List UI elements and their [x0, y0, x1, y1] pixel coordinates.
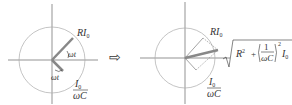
- left-angle-label-2: ωt: [51, 73, 60, 82]
- paren-exponent: 2: [278, 41, 281, 47]
- left-phasor: RI0 ωt ωt I0 ωC: [8, 4, 98, 104]
- phasor-diagram: RI0 ωt ωt I0 ωC ⇨ RI0 I0 ωC R2 + 1 ωC: [0, 0, 292, 105]
- result-I0: I0: [281, 48, 288, 60]
- right-dashed-1: [203, 38, 218, 50]
- left-angle-label-1: ωt: [68, 50, 77, 59]
- sqrt-plus: +: [251, 49, 256, 59]
- right-phasor: RI0 I0 ωC R2 + 1 ωC 2 I0: [140, 2, 292, 104]
- right-label-ri0: RI0: [209, 26, 222, 38]
- right-frac-num: I0: [208, 76, 215, 88]
- left-paren: [259, 44, 261, 62]
- magnitude-expression: R2 + 1 ωC 2 I0: [223, 40, 292, 67]
- right-vector-i0-wc: [185, 58, 196, 70]
- right-frac-den: ωC: [207, 88, 221, 99]
- sqrt-R: R2: [235, 48, 245, 59]
- left-frac-den: ωC: [73, 90, 87, 101]
- transform-arrow-icon: ⇨: [109, 50, 121, 65]
- right-paren: [275, 44, 277, 62]
- left-label-ri0: RI0: [76, 27, 89, 39]
- inner-frac-num: 1: [264, 42, 269, 52]
- left-vector-i0-wc: [52, 60, 63, 71]
- inner-frac-den: ωC: [261, 53, 274, 63]
- left-frac-num: I0: [74, 78, 81, 90]
- right-resultant-vector: [185, 50, 218, 58]
